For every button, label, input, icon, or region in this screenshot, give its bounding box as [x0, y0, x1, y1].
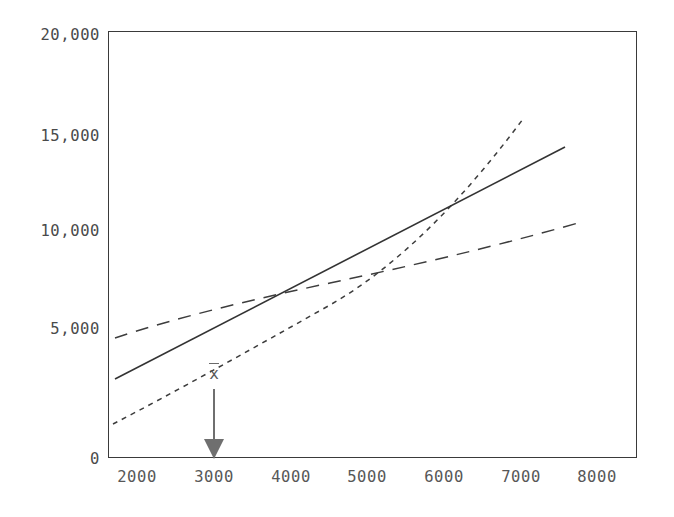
y-tick-label-20000: 20,000: [4, 28, 100, 44]
mean-annotation: x: [196, 363, 232, 459]
y-axis-labels: 20,000 15,000 10,000 5,000 0: [0, 0, 100, 517]
y-tick-label-0: 0: [4, 452, 100, 468]
mean-symbol-text: x: [209, 363, 219, 382]
y-tick-label-15000: 15,000: [4, 129, 100, 145]
chart-figure: 20,000 15,000 10,000 5,000 0 x 2000 3000…: [0, 0, 674, 517]
x-axis-labels: 2000 3000 4000 5000 6000 7000 8000: [0, 470, 674, 496]
x-tick-label-8000: 8000: [552, 470, 642, 486]
plot-frame: [108, 31, 637, 458]
y-tick-label-5000: 5,000: [4, 322, 100, 338]
mean-symbol-label: x: [196, 363, 232, 382]
y-tick-label-10000: 10,000: [4, 224, 100, 240]
mean-arrow-icon: [196, 389, 232, 459]
